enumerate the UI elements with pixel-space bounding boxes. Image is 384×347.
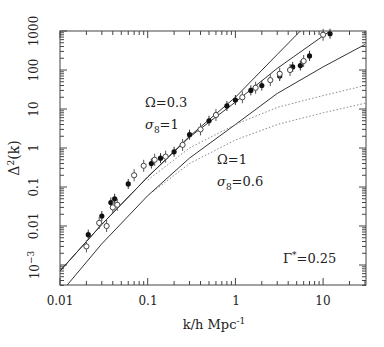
x-label-text: k/h Mpc (183, 317, 237, 332)
y-label-sup: 2 (6, 160, 16, 166)
y-tick-label: 100 (27, 59, 41, 82)
x-axis-label: k/h Mpc-1 (183, 316, 245, 332)
data-point-filled (86, 232, 91, 237)
data-point-open (268, 78, 273, 83)
data-point-open (84, 244, 89, 249)
y-tick-exp: −3 (26, 251, 36, 264)
data-point-open (141, 163, 146, 168)
gamma-symbol: Γ (283, 251, 292, 266)
data-point-open (240, 95, 245, 100)
data-point-filled (172, 149, 177, 154)
curve-line (60, 31, 300, 271)
y-tick-base: 10 (28, 264, 42, 279)
x-tick-label: 0.01 (47, 294, 74, 308)
sigma-value: =0.6 (232, 174, 264, 189)
y-tick-label: 1 (27, 144, 41, 152)
x-label-sup: -1 (236, 316, 245, 326)
gamma-value: =0.25 (297, 251, 337, 266)
y-tick-label: 10−3 (26, 251, 42, 280)
y-tick-label: 10 (27, 101, 41, 116)
annotation-sigma8-0.6: σ8=0.6 (217, 174, 263, 192)
data-point-filled (233, 97, 238, 102)
x-tick-label: 0.1 (138, 294, 157, 308)
data-point-open (115, 202, 120, 207)
data-point-open (277, 71, 282, 76)
y-tick-label: 0.01 (27, 213, 41, 240)
sigma-value: =1 (160, 117, 179, 132)
data-point-filled (112, 196, 117, 201)
data-point-open (321, 32, 326, 37)
data-point-filled (126, 181, 131, 186)
data-point-filled (206, 118, 211, 123)
data-point-filled (158, 156, 163, 161)
x-tick-label: 10 (315, 294, 330, 308)
data-point-open (152, 157, 157, 162)
sigma-symbol: σ (145, 117, 154, 132)
y-tick-label: 0.1 (27, 177, 41, 196)
data-point-open (301, 58, 306, 63)
y-axis-label: Δ2(k) (6, 140, 23, 175)
data-point-open (97, 220, 102, 225)
data-point-open (287, 67, 292, 72)
data-point-open (198, 127, 203, 132)
data-point-filled (187, 132, 192, 137)
data-point-filled (307, 53, 312, 58)
annotation-gamma: Γ*=0.25 (283, 250, 336, 266)
annotation-omega-0.3: Ω=0.3 (145, 95, 187, 110)
data-point-filled (224, 103, 229, 108)
data-point-open (213, 112, 218, 117)
chart: 1000 100 10 1 0.1 0.01 10−3 Δ2(k) 0.01 0… (0, 0, 384, 347)
y-label-delta: Δ (6, 166, 22, 176)
data-point-open (180, 142, 185, 147)
data-point-filled (298, 63, 303, 68)
y-label-tail: (k) (6, 140, 22, 159)
data-point-open (104, 223, 109, 228)
data-point-open (163, 154, 168, 159)
annotation-omega-1: Ω=1 (217, 152, 247, 167)
sigma-symbol: σ (217, 174, 226, 189)
y-tick-label: 1000 (27, 16, 41, 47)
data-point-filled (259, 83, 264, 88)
annotation-sigma8-1: σ8=1 (145, 117, 179, 135)
x-tick-label: 1 (232, 294, 240, 308)
data-point-open (253, 85, 258, 90)
data-point-filled (99, 213, 104, 218)
data-point-filled (327, 31, 332, 36)
data-point-open (132, 173, 137, 178)
